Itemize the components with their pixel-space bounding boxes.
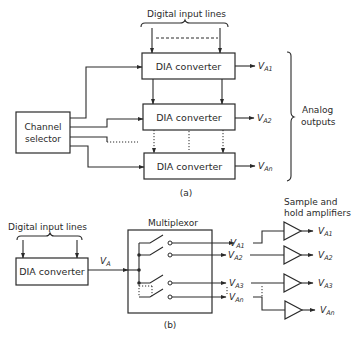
switch-n-contact (168, 295, 172, 299)
caption-a: (a) (180, 188, 193, 198)
amp-in-n (253, 297, 285, 310)
dac-multiplexing-diagram: Digital input lines DIA converter VA1 DI… (0, 0, 355, 337)
junction-dot (137, 268, 141, 272)
select-line-n (70, 146, 144, 167)
part-a: Digital input lines DIA converter VA1 DI… (16, 9, 336, 198)
switch-3-contact (168, 281, 172, 285)
amp-out-van-label: VAn (320, 305, 335, 317)
amp-out-va1-label: VA1 (318, 226, 333, 238)
da-converter-2-label: DIA converter (156, 112, 222, 123)
channel-selector-line2: selector (25, 134, 61, 144)
mux-out-van-label: VAn (229, 292, 244, 304)
amp-out-va3-label: VA3 (318, 278, 333, 290)
analog-outputs-brace (287, 52, 294, 181)
da-converter-n-label: DIA converter (157, 161, 223, 172)
channel-selector (16, 112, 70, 153)
switch-2-contact (168, 253, 172, 257)
select-line-2 (70, 119, 143, 127)
part-b: Digital input lines DIA converter VA Mul… (8, 197, 351, 330)
amplifier-3 (284, 274, 301, 292)
amplifier-n (285, 301, 302, 319)
output-va2-label: VA2 (257, 113, 272, 125)
analog-outputs-line2: outputs (301, 117, 336, 127)
mux-out-va3-label: VA3 (229, 278, 244, 290)
input-brace-a (141, 20, 228, 27)
channel-selector-line1: Channel (25, 122, 62, 132)
amp-out-va2-label: VA2 (318, 250, 333, 262)
output-van-label: VAn (258, 161, 273, 173)
digital-input-lines-label-b: Digital input lines (8, 222, 87, 232)
sample-hold-line2: hold amplifiers (284, 208, 351, 218)
input-brace-b (17, 233, 82, 240)
mux-out-va2-label: VA2 (228, 250, 243, 262)
da-converter-1-label: DIA converter (156, 61, 222, 72)
amp-in-1 (253, 231, 284, 243)
sample-hold-line1: Sample and (284, 197, 338, 207)
va-label: VA (100, 256, 111, 268)
caption-b: (b) (164, 320, 177, 330)
select-line-3-solid (70, 137, 107, 142)
mux-out-va1-label: VA1 (230, 238, 245, 250)
switch-1-contact (168, 241, 172, 245)
multiplexor-label: Multiplexor (148, 218, 198, 228)
amplifier-1 (284, 222, 301, 240)
select-line-1 (70, 67, 142, 118)
amplifier-2 (284, 246, 301, 264)
output-va1-label: VA1 (258, 61, 273, 73)
analog-outputs-line1: Analog (302, 105, 333, 115)
da-converter-b-label: DIA converter (19, 266, 85, 277)
digital-input-lines-label-a: Digital input lines (147, 9, 226, 19)
